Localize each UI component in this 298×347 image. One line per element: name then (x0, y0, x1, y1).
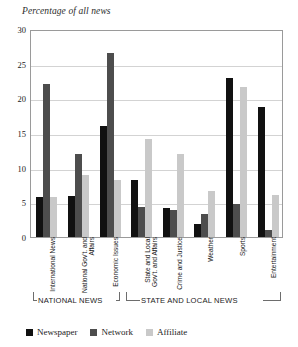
bar-group-national-gov-t-and-affairs (63, 31, 95, 237)
bar-state-and-local-gov-t-and-affairs-network (138, 207, 145, 237)
legend-label-network: Network (101, 327, 133, 337)
legend-swatch-network-icon (90, 329, 97, 336)
bar-national-gov-t-and-affairs-newspaper (68, 196, 75, 237)
y-tick-10: 10 (2, 164, 26, 174)
legend-label-newspaper: Newspaper (37, 327, 77, 337)
y-tick-20: 20 (2, 94, 26, 104)
y-tick-25: 25 (2, 60, 26, 70)
bar-entertainment-newspaper (258, 107, 265, 237)
category-label-crime-and-justice: Crime and Justice (176, 237, 183, 295)
bar-crime-and-justice-newspaper (163, 208, 170, 237)
bar-group-entertainment (252, 31, 284, 237)
bar-entertainment-network (265, 230, 272, 237)
section-label-state-and-local-news: STATE AND LOCAL NEWS (141, 296, 238, 305)
x-axis-category-labels: International News National Gov't. and A… (30, 239, 283, 297)
bar-group-state-and-local-gov-t-and-affairs (126, 31, 158, 237)
bar-international-news-newspaper (36, 197, 43, 237)
legend-label-affiliate: Affiliate (157, 327, 187, 337)
y-axis-title: Percentage of all news (22, 6, 111, 16)
bar-weather-affiliate (208, 191, 215, 237)
bar-crime-and-justice-affiliate (177, 154, 184, 237)
bar-national-gov-t-and-affairs-affiliate (82, 175, 89, 237)
y-tick-5: 5 (2, 198, 26, 208)
bar-state-and-local-gov-t-and-affairs-affiliate (145, 139, 152, 237)
y-tick-30: 30 (2, 25, 26, 35)
category-label-weather: Weather (207, 237, 214, 295)
plot-area (30, 30, 283, 238)
bar-entertainment-affiliate (272, 195, 279, 237)
bar-economic-issues-network (107, 53, 114, 237)
bar-group-economic-issues (94, 31, 126, 237)
legend-swatch-newspaper-icon (26, 329, 33, 336)
bar-economic-issues-newspaper (100, 126, 107, 237)
bar-weather-network (201, 214, 208, 237)
bar-sports-network (233, 204, 240, 237)
bar-sports-affiliate (240, 87, 247, 237)
bar-international-news-affiliate (50, 197, 57, 237)
bar-international-news-network (43, 84, 50, 237)
y-tick-15: 15 (2, 129, 26, 139)
category-label-economic-issues: Economic Issues (112, 237, 119, 295)
bar-group-crime-and-justice (158, 31, 190, 237)
bar-sports-newspaper (226, 78, 233, 237)
legend-item-newspaper: Newspaper (26, 327, 77, 337)
legend-item-affiliate: Affiliate (146, 327, 187, 337)
category-label-sports: Sports (239, 237, 246, 295)
category-label-international-news: International News (49, 237, 56, 295)
bars-layer (31, 31, 282, 237)
bar-crime-and-justice-network (170, 210, 177, 237)
bar-national-gov-t-and-affairs-network (75, 154, 82, 237)
category-label-entertainment: Entertainment (270, 237, 277, 295)
legend: Newspaper Network Affiliate (26, 327, 187, 337)
bar-chart: Percentage of all news 30 25 20 15 10 5 … (0, 0, 298, 347)
bar-state-and-local-gov-t-and-affairs-newspaper (131, 180, 138, 237)
y-tick-0: 0 (2, 233, 26, 243)
bar-group-sports (221, 31, 253, 237)
category-label-state-and-local-govt-and-affairs: State and Local Gov't. and Affairs (144, 237, 159, 295)
bar-economic-issues-affiliate (114, 180, 121, 237)
category-label-national-govt-and-affairs: National Gov't. and Affairs (81, 237, 96, 295)
bar-group-international-news (31, 31, 63, 237)
legend-item-network: Network (90, 327, 133, 337)
section-label-national-news: NATIONAL NEWS (38, 296, 103, 305)
legend-swatch-affiliate-icon (146, 329, 153, 336)
bar-weather-newspaper (194, 224, 201, 237)
bar-group-weather (189, 31, 221, 237)
